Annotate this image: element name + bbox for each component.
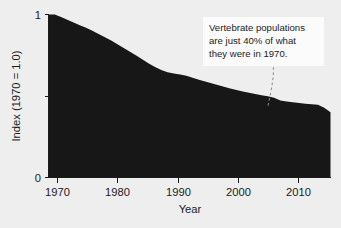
annotation-line-2: are just 40% of what <box>209 34 319 47</box>
y-axis-title: Index (1970 = 1.0) <box>10 50 22 141</box>
annotation-vertebrate-decline-note: Vertebrate populations are just 40% of w… <box>203 17 324 66</box>
x-tick-label-2010: 2010 <box>286 186 311 198</box>
x-tick-label-1970: 1970 <box>45 186 70 198</box>
y-tick-label-0: 0 <box>35 172 41 184</box>
y-tick-label-1: 1 <box>35 9 41 21</box>
annotation-line-1: Vertebrate populations <box>209 21 319 34</box>
x-tick-label-2000: 2000 <box>226 186 251 198</box>
annotation-line-3: they were in 1970. <box>209 47 319 60</box>
chart-container: 1 0 1970 1980 1990 2000 2010 Year Index … <box>0 0 341 228</box>
x-axis-title: Year <box>179 203 202 215</box>
x-tick-label-1990: 1990 <box>166 186 191 198</box>
x-tick-label-1980: 1980 <box>105 186 130 198</box>
